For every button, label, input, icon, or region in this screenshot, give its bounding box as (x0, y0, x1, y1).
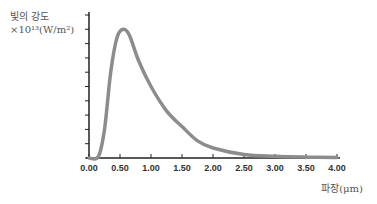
x-tick-label: 0.50 (111, 163, 129, 173)
x-tick-label: 0.00 (80, 163, 98, 173)
chart-canvas: 0.000.501.001.502.002.503.003.504.00 (0, 0, 377, 204)
x-tick-label: 3.50 (297, 163, 315, 173)
x-tick-label: 1.00 (142, 163, 160, 173)
x-tick-label: 2.50 (235, 163, 253, 173)
x-tick-label: 1.50 (173, 163, 191, 173)
x-tick-label: 3.00 (266, 163, 284, 173)
x-tick-label: 2.00 (204, 163, 222, 173)
series-line-intensity (89, 29, 337, 159)
x-tick-label: 4.00 (328, 163, 346, 173)
